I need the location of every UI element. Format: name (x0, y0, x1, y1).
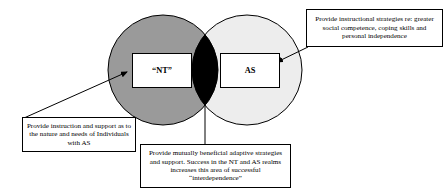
callout-nt-support: Provide instruction and support as to th… (22, 117, 136, 152)
callout-interdependence-text: Provide mutually beneficial adaptive str… (144, 149, 287, 182)
connector-nt-support (24, 72, 127, 118)
callout-nt-support-text: Provide instruction and support as to th… (26, 122, 132, 147)
callout-as-strategies: Provide instructional strategies re: gre… (306, 9, 443, 47)
left-set-label-box: “NT” (132, 53, 192, 88)
callout-as-strategies-text: Provide instructional strategies re: gre… (310, 15, 439, 40)
venn-diagram: “NT” AS Provide instruction and support … (0, 0, 446, 196)
right-set-label: AS (245, 66, 256, 75)
left-set-label: “NT” (152, 66, 172, 75)
right-set-label-box: AS (220, 53, 280, 88)
callout-interdependence: Provide mutually beneficial adaptive str… (140, 144, 291, 188)
